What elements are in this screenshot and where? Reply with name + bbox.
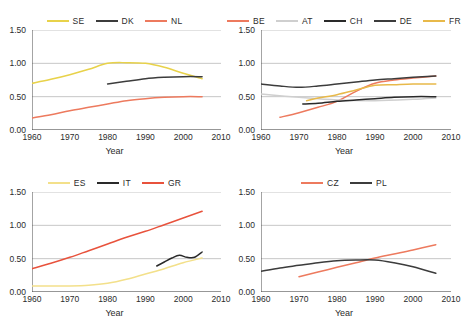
legend-swatch-icon-cz bbox=[301, 182, 323, 184]
x-tick-label: 1970 bbox=[60, 133, 79, 142]
x-tick-label: 1990 bbox=[136, 133, 155, 142]
x-tick-label: 2000 bbox=[404, 295, 423, 304]
series-line-fr bbox=[307, 84, 436, 101]
chart-panel-1: SEDKNL 0.000.501.001.50 1960197019801990… bbox=[0, 0, 229, 162]
plot-canvas-panel-3 bbox=[32, 192, 221, 292]
chart-panel-3: ESITGR 0.000.501.001.50 1960197019801990… bbox=[0, 162, 229, 325]
legend-item-cz[interactable]: CZ bbox=[301, 179, 339, 188]
x-tick-label: 2010 bbox=[212, 295, 231, 304]
y-tick-label: 0.50 bbox=[238, 254, 255, 263]
x-axis-labels-panel-3: 196019701980199020002010 bbox=[32, 295, 221, 307]
legend-label: DK bbox=[122, 17, 134, 26]
x-tick-label: 1980 bbox=[98, 295, 117, 304]
legend-label: IT bbox=[123, 179, 131, 188]
y-tick-label: 0.50 bbox=[9, 254, 26, 263]
legend-item-es[interactable]: ES bbox=[48, 179, 86, 188]
y-tick-label: 1.00 bbox=[238, 59, 255, 68]
y-axis-labels-panel-4: 0.000.501.001.50 bbox=[229, 192, 259, 292]
x-tick-label: 2000 bbox=[174, 133, 193, 142]
legend-swatch-icon-de bbox=[374, 20, 396, 22]
legend-swatch-icon-gr bbox=[142, 182, 164, 184]
legend-item-ch[interactable]: CH bbox=[324, 17, 363, 26]
x-tick-label: 1970 bbox=[290, 295, 309, 304]
y-axis-labels-panel-3: 0.000.501.001.50 bbox=[0, 192, 30, 292]
legend-swatch-icon-es bbox=[48, 182, 70, 184]
x-axis-labels-panel-4: 196019701980199020002010 bbox=[261, 295, 451, 307]
legend-label: PL bbox=[376, 179, 387, 188]
plot-svg bbox=[261, 30, 451, 130]
plot-canvas-panel-2 bbox=[261, 30, 451, 130]
chart-panel-2: BEATCHDEFR 0.000.501.001.50 196019701980… bbox=[229, 0, 459, 162]
legend-label: ES bbox=[74, 179, 86, 188]
legend-swatch-icon-nl bbox=[145, 20, 167, 22]
y-tick-label: 1.50 bbox=[238, 26, 255, 35]
x-tick-label: 1990 bbox=[366, 133, 385, 142]
legend-item-at[interactable]: AT bbox=[276, 17, 313, 26]
plot-svg bbox=[32, 192, 221, 292]
x-tick-label: 1990 bbox=[366, 295, 385, 304]
plot-canvas-panel-1 bbox=[32, 30, 221, 130]
x-axis-title-panel-2: Year bbox=[229, 146, 459, 156]
y-tick-label: 1.00 bbox=[9, 221, 26, 230]
legend-item-dk[interactable]: DK bbox=[96, 17, 134, 26]
y-axis-labels-panel-1: 0.000.501.001.50 bbox=[0, 30, 30, 130]
legend-item-nl[interactable]: NL bbox=[145, 17, 182, 26]
legend-swatch-icon-dk bbox=[96, 20, 118, 22]
legend-swatch-icon-pl bbox=[350, 182, 372, 184]
legend-item-pl[interactable]: PL bbox=[350, 179, 387, 188]
legend-label: AT bbox=[302, 17, 313, 26]
legend-swatch-icon-it bbox=[97, 182, 119, 184]
legend-label: NL bbox=[171, 17, 182, 26]
series-line-se bbox=[32, 63, 202, 84]
x-tick-label: 1960 bbox=[252, 295, 271, 304]
series-line-gr bbox=[32, 211, 202, 268]
y-tick-label: 0.50 bbox=[238, 92, 255, 101]
x-tick-label: 1980 bbox=[328, 295, 347, 304]
legend-panel-4: CZPL bbox=[229, 176, 459, 190]
x-tick-label: 2010 bbox=[442, 295, 461, 304]
series-line-de bbox=[261, 76, 436, 87]
x-tick-label: 1960 bbox=[252, 133, 271, 142]
y-tick-label: 1.50 bbox=[9, 26, 26, 35]
legend-label: CH bbox=[350, 17, 363, 26]
legend-item-fr[interactable]: FR bbox=[423, 17, 461, 26]
series-line-es bbox=[32, 258, 202, 286]
legend-swatch-icon-be bbox=[227, 20, 249, 22]
y-axis-labels-panel-2: 0.000.501.001.50 bbox=[229, 30, 259, 130]
legend-item-de[interactable]: DE bbox=[374, 17, 412, 26]
legend-swatch-icon-ch bbox=[324, 20, 346, 22]
chart-panel-4: CZPL 0.000.501.001.50 196019701980199020… bbox=[229, 162, 459, 325]
x-axis-title-panel-3: Year bbox=[0, 308, 229, 318]
plot-area-panel-2: 0.000.501.001.50 19601970198019902000201… bbox=[229, 30, 459, 130]
legend-label: GR bbox=[168, 179, 181, 188]
x-tick-label: 2010 bbox=[212, 133, 231, 142]
plot-canvas-panel-4 bbox=[261, 192, 451, 292]
series-line-pl bbox=[261, 260, 436, 274]
x-tick-label: 1960 bbox=[23, 295, 42, 304]
legend-swatch-icon-fr bbox=[423, 20, 445, 22]
y-tick-label: 1.50 bbox=[238, 188, 255, 197]
x-axis-labels-panel-2: 196019701980199020002010 bbox=[261, 133, 451, 145]
legend-item-se[interactable]: SE bbox=[47, 17, 85, 26]
y-tick-label: 1.00 bbox=[9, 59, 26, 68]
x-tick-label: 1970 bbox=[60, 295, 79, 304]
y-tick-label: 1.50 bbox=[9, 188, 26, 197]
series-line-nl bbox=[32, 97, 202, 118]
plot-svg bbox=[261, 192, 451, 292]
x-tick-label: 2010 bbox=[442, 133, 461, 142]
x-tick-label: 1990 bbox=[136, 295, 155, 304]
legend-panel-1: SEDKNL bbox=[0, 14, 229, 28]
x-axis-title-panel-4: Year bbox=[229, 308, 459, 318]
plot-area-panel-3: 0.000.501.001.50 19601970198019902000201… bbox=[0, 192, 229, 292]
legend-item-gr[interactable]: GR bbox=[142, 179, 181, 188]
x-tick-label: 1970 bbox=[290, 133, 309, 142]
legend-label: SE bbox=[73, 17, 85, 26]
legend-swatch-icon-se bbox=[47, 20, 69, 22]
legend-panel-2: BEATCHDEFR bbox=[229, 14, 459, 28]
legend-item-it[interactable]: IT bbox=[97, 179, 131, 188]
series-line-dk bbox=[108, 77, 203, 84]
x-tick-label: 2000 bbox=[174, 295, 193, 304]
y-tick-label: 1.00 bbox=[238, 221, 255, 230]
legend-swatch-icon-at bbox=[276, 20, 298, 22]
